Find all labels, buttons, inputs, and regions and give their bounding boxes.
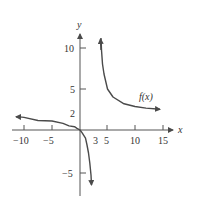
y-axis-label: y xyxy=(76,19,82,30)
function-label: f(x) xyxy=(139,91,154,103)
curve-right-branch-top xyxy=(101,39,102,50)
x-tick-label-15: 15 xyxy=(158,135,168,146)
y-tick-label-5: 5 xyxy=(70,84,75,95)
x-tick-label-neg5: −5 xyxy=(43,135,54,146)
x-ticks xyxy=(24,125,163,130)
y-tick-label-10: 10 xyxy=(64,43,74,54)
x-tick-label-neg10: −10 xyxy=(13,135,29,146)
x-axis-label: x xyxy=(177,124,183,135)
curve-left-branch xyxy=(22,117,92,185)
function-graph: −10 −5 3 5 10 15 10 5 2 −5 x y f(x) xyxy=(0,0,197,206)
y-tick-label-neg5: −5 xyxy=(62,168,73,179)
y-ticks xyxy=(80,48,86,173)
x-tick-label-5: 5 xyxy=(104,135,109,146)
y-tick-label-2: 2 xyxy=(70,108,75,119)
x-tick-label-3: 3 xyxy=(93,135,98,146)
x-tick-label-10: 10 xyxy=(130,135,140,146)
